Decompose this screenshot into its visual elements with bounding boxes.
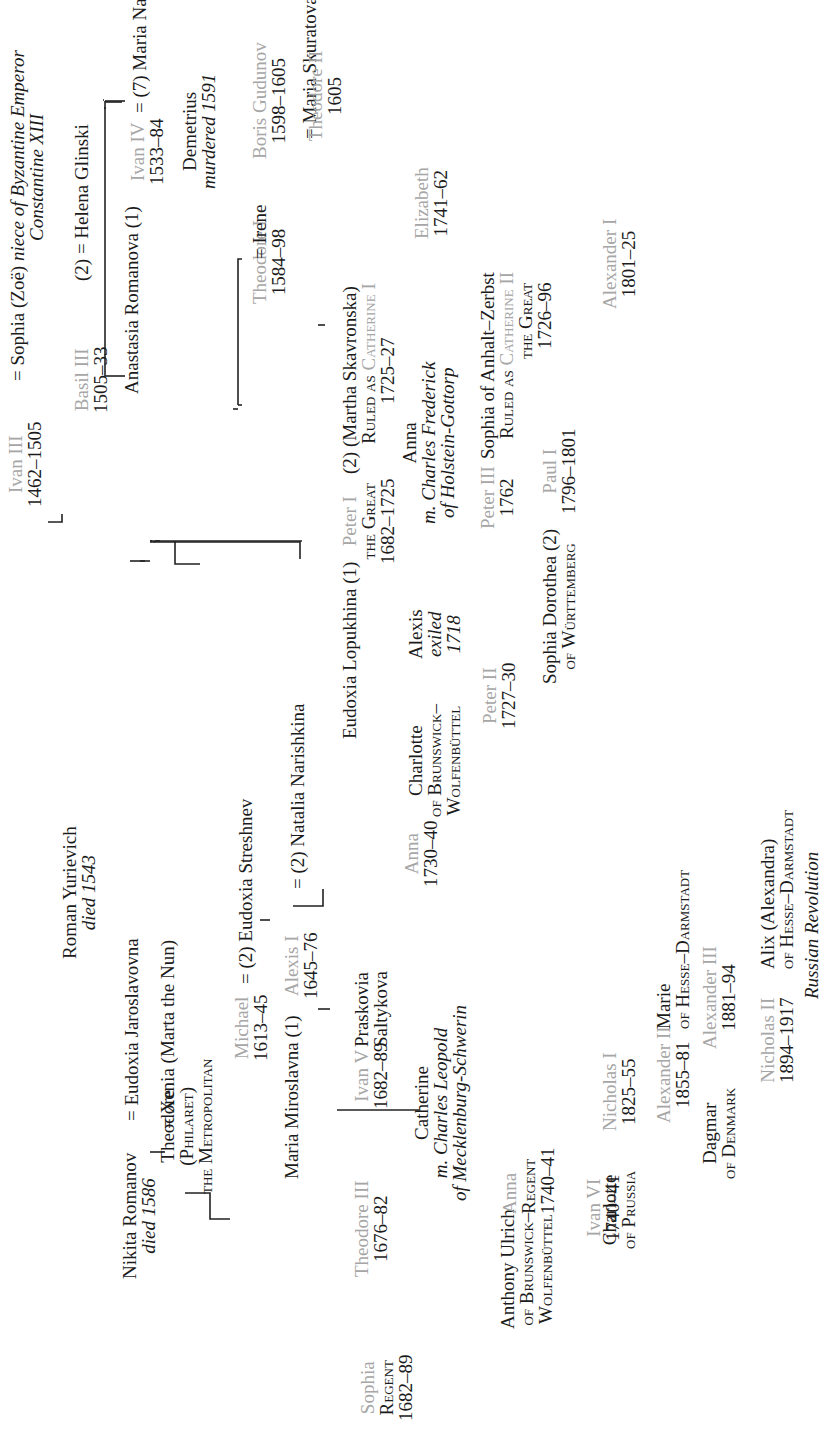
reign-years: 1682–89 xyxy=(371,1043,390,1110)
person-title: the Metropolitan xyxy=(196,1059,215,1194)
node-charlotte-brunswick: Charlotte of Brunswick– Wolfenbüttel xyxy=(406,704,463,817)
reign-years: 1682–89 xyxy=(396,1355,415,1422)
person-name: Sophia (Zoë) xyxy=(7,266,28,366)
node-alexis-exiled: Alexis exiled 1718 xyxy=(406,609,463,659)
reign-years: 1725–27 xyxy=(378,283,397,474)
person-note: of Mecklenburg-Schwerin xyxy=(450,1005,469,1201)
node-paul-i: Paul I 1796–1801 xyxy=(540,429,578,515)
node-catherine-mecklenburg: Catherine m. Charles Leopold of Mecklenb… xyxy=(412,1005,469,1201)
person-name: Sophia Dorothea (2) xyxy=(540,529,559,684)
marriage-symbol: = xyxy=(287,878,308,889)
reign-years: 1762 xyxy=(497,466,516,529)
person-name: Marie xyxy=(654,870,673,1029)
node-anastasia-romanova: Anastasia Romanova (1) xyxy=(122,206,141,394)
reign-years: 1741–62 xyxy=(431,167,450,239)
person-name: Sophia of Anhalt–Zerbst xyxy=(478,272,497,459)
reign-years: 1796–1801 xyxy=(559,429,578,515)
person-name: Alix (Alexandra) xyxy=(758,810,777,969)
person-name: Xenia (Marta the Nun) xyxy=(157,940,178,1114)
person-note: 1718 xyxy=(444,609,463,659)
person-name: (2) Natalia Narishkina xyxy=(287,704,308,874)
person-name: Charlotte xyxy=(600,1171,619,1249)
node-elizabeth: Elizabeth 1741–62 xyxy=(412,167,450,239)
person-name: (2) = Helena Glinski xyxy=(71,124,92,281)
person-note: died 1543 xyxy=(79,826,98,959)
node-boris-gudunov: Boris Gudunov 1598–1605 xyxy=(250,42,288,159)
person-note: Constantine XIII xyxy=(27,50,46,381)
node-nicholas-ii: Nicholas II 1894–1917 xyxy=(758,998,796,1084)
node-alexis-i: Alexis I 1645–76 xyxy=(282,933,320,1000)
person-name: Charlotte xyxy=(406,704,425,817)
tsar-name: Alexander III xyxy=(700,946,719,1049)
node-alexander-i: Alexander I 1801–25 xyxy=(600,219,638,309)
tsar-name: Peter II xyxy=(480,663,499,730)
node-basil-iii: Basil III 1505–33 xyxy=(72,347,110,414)
person-title: of Hesse–Darmstadt xyxy=(777,810,796,969)
person-name: Praskovia xyxy=(352,971,371,1047)
tsar-name: Sophia xyxy=(358,1355,377,1422)
node-anna-regent: Anna Regent 1740–41 xyxy=(500,1148,557,1215)
reign-years: 1801–25 xyxy=(619,219,638,309)
person-title: of Hesse–Darmstadt xyxy=(673,870,692,1029)
tsar-name: Theodore III xyxy=(352,1180,371,1277)
reign-years: 1682–1725 xyxy=(378,479,397,565)
person-title: Regent xyxy=(377,1355,396,1422)
reign-years: 1727–30 xyxy=(499,663,518,730)
node-anthony-ulrich: Anthony Ulrich of Brunswick– Wolfenbütte… xyxy=(498,1209,555,1329)
tsar-name: Anna xyxy=(402,821,421,888)
person-note: m. Charles Leopold xyxy=(431,1005,450,1201)
node-alexander-ii: Alexander II 1855–81 xyxy=(654,1026,692,1123)
node-irene: = Irene xyxy=(250,205,269,260)
person-name: Catherine xyxy=(412,1005,431,1201)
person-note: m. Charles Frederick xyxy=(419,362,438,524)
reign-years: 1613–45 xyxy=(251,995,270,1062)
node-sophia-zoe: = Sophia (Zoë) niece of Byzantine Empero… xyxy=(8,50,46,381)
node-theodore-iii: Theodore III 1676–82 xyxy=(352,1180,390,1277)
node-sophia-regent: Sophia Regent 1682–89 xyxy=(358,1355,415,1422)
marriage-symbol: = xyxy=(235,973,256,984)
person-title: Wolfenbüttel xyxy=(536,1209,555,1329)
node-maria-miroslavna: Maria Miroslavna (1) xyxy=(282,1015,301,1179)
tsar-name: Theodore II xyxy=(306,51,325,141)
reign-years: 1825–55 xyxy=(619,1052,638,1131)
reign-years: 1598–1605 xyxy=(269,42,288,159)
person-name: Demetrius xyxy=(180,74,199,189)
person-title: of Denmark xyxy=(719,1088,738,1179)
tsar-name: Ivan IV xyxy=(128,119,147,186)
node-roman-yurievich: Roman Yurievich died 1543 xyxy=(60,826,98,959)
node-michael: Michael 1613–45 xyxy=(232,995,270,1062)
reign-years: 1505–33 xyxy=(91,347,110,414)
reign-years: 1584–98 xyxy=(269,220,288,304)
tsar-name: Peter III xyxy=(478,466,497,529)
reign-years: 1894–1917 xyxy=(777,998,796,1084)
person-name: Nikita Romanov xyxy=(120,1153,139,1279)
ruled-as: Ruled as Catherine II xyxy=(497,272,516,459)
reign-years: 1855–81 xyxy=(673,1026,692,1123)
tsar-name: Basil III xyxy=(72,347,91,414)
tsar-name: Elizabeth xyxy=(412,167,431,239)
node-ivan-iv: Ivan IV 1533–84 xyxy=(128,119,166,186)
node-helena-glinski: (2) = Helena Glinski xyxy=(72,124,91,281)
node-anna-holstein: Anna m. Charles Frederick of Holstein-Go… xyxy=(400,362,457,524)
person-name: (7) Maria Nagaia xyxy=(129,0,150,98)
reign-years: 1740–41 xyxy=(538,1148,557,1215)
node-eudoxia-streshnev: = (2) Eudoxia Streshnev xyxy=(236,799,255,984)
person-name: Maria Miroslavna (1) xyxy=(281,1015,302,1179)
marriage-symbol: = xyxy=(129,102,150,113)
person-title: of Prussia xyxy=(619,1171,638,1249)
person-title: (Philaret) xyxy=(177,1059,196,1194)
tsar-name: Alexander II xyxy=(654,1026,673,1123)
node-nicholas-i: Nicholas I 1825–55 xyxy=(600,1052,638,1131)
node-peter-ii: Peter II 1727–30 xyxy=(480,663,518,730)
reign-years: 1676–82 xyxy=(371,1180,390,1277)
node-praskovia: Praskovia Saltykova xyxy=(352,971,390,1047)
ruled-as: Ruled as Catherine I xyxy=(359,283,378,474)
tsar-name: Michael xyxy=(232,995,251,1062)
person-title: Regent xyxy=(519,1148,538,1215)
person-title: Wolfenbüttel xyxy=(444,704,463,817)
reign-years: 1881–94 xyxy=(719,946,738,1049)
person-name: (2) Eudoxia Streshnev xyxy=(235,799,256,969)
node-xenia: = Xenia (Marta the Nun) xyxy=(158,940,177,1129)
tsar-name: Alexander I xyxy=(600,219,619,309)
tsar-name: Alexis I xyxy=(282,933,301,1000)
